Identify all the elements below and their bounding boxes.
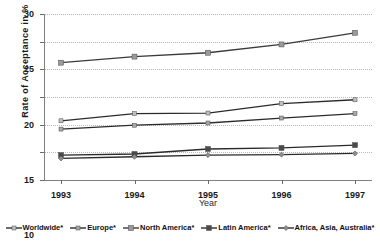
y-tick-label: 15 — [24, 175, 34, 185]
series-layer — [44, 14, 372, 181]
data-point — [12, 226, 16, 230]
data-point — [132, 54, 137, 59]
data-point — [128, 226, 133, 231]
data-point — [207, 226, 212, 231]
data-point — [279, 42, 284, 47]
legend-marker-icon — [6, 224, 22, 232]
data-point — [206, 111, 210, 115]
data-point — [59, 60, 64, 65]
data-point — [206, 121, 210, 125]
data-point — [280, 116, 284, 120]
data-point — [279, 152, 284, 157]
data-point — [353, 112, 357, 116]
data-point — [76, 226, 80, 230]
data-point — [205, 153, 210, 158]
data-point — [206, 147, 211, 152]
y-tick-label: 30 — [24, 9, 34, 19]
legend-item-worldwide[interactable]: Worldwide* — [6, 224, 64, 232]
plot-area: 051015202530 19931994199519961997 — [44, 14, 372, 181]
legend-marker-icon — [201, 224, 217, 232]
x-axis-title: Year — [44, 198, 372, 208]
data-point — [59, 119, 63, 123]
data-point — [133, 123, 137, 127]
legend-label: Latin America* — [218, 224, 270, 232]
series-north-america — [59, 30, 358, 65]
data-point — [59, 127, 63, 131]
chart-legend: Worldwide*Europe*North America*Latin Ame… — [0, 224, 380, 232]
legend-marker-icon — [70, 224, 86, 232]
data-point — [283, 225, 288, 230]
legend-label: Europe* — [87, 224, 116, 232]
legend-label: North America* — [140, 224, 194, 232]
data-point — [279, 145, 284, 150]
line-chart: Rate of Acceptance in % 051015202530 199… — [0, 0, 380, 243]
legend-label: Africa, Asia, Australia* — [295, 224, 375, 232]
y-tick-label: 25 — [24, 64, 34, 74]
series-africa-asia-australia — [58, 151, 357, 161]
legend-marker-icon — [123, 224, 139, 232]
data-point — [353, 143, 358, 148]
legend-item-africa-asia-australia[interactable]: Africa, Asia, Australia* — [278, 224, 375, 232]
y-tick-label: 20 — [24, 120, 34, 130]
legend-item-north-america[interactable]: North America* — [123, 224, 194, 232]
series-line — [61, 100, 355, 121]
legend-item-europe[interactable]: Europe* — [70, 224, 116, 232]
data-point — [353, 98, 357, 102]
data-point — [133, 112, 137, 116]
data-point — [280, 102, 284, 106]
legend-marker-icon — [278, 224, 294, 232]
data-point — [352, 151, 357, 156]
legend-item-latin-america[interactable]: Latin America* — [201, 224, 270, 232]
data-point — [353, 30, 358, 35]
legend-label: Worldwide* — [23, 224, 64, 232]
series-line — [61, 33, 355, 63]
data-point — [206, 50, 211, 55]
series-worldwide — [59, 98, 357, 123]
